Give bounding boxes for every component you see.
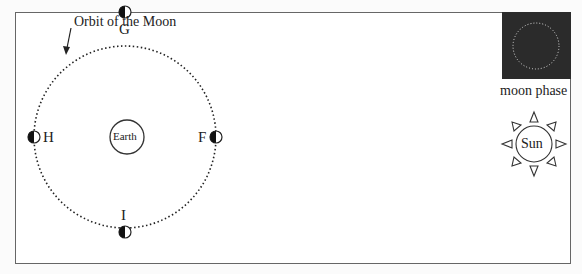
moon-phase-label: moon phase <box>500 84 567 98</box>
earth-label: Earth <box>113 131 137 142</box>
sun-label: Sun <box>521 137 543 151</box>
position-label-i: I <box>121 208 126 223</box>
position-label-f: F <box>198 130 206 145</box>
orbit-arrow-icon <box>63 28 71 55</box>
moon-f-icon <box>210 131 222 143</box>
position-label-h: H <box>43 130 54 145</box>
moon-phase-box <box>502 12 571 79</box>
position-label-g: G <box>119 22 130 37</box>
moon-h-icon <box>28 131 40 143</box>
orbit-diagram <box>0 0 582 274</box>
moon-i-icon <box>119 226 131 238</box>
